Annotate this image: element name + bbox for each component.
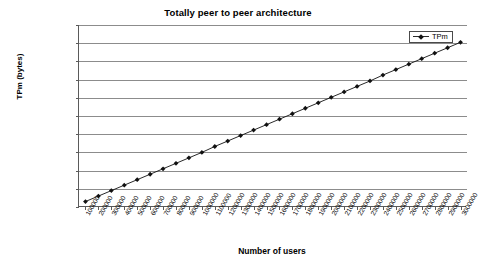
x-axis-title: Number of users [78, 246, 466, 256]
data-point-marker [458, 40, 463, 45]
y-tick-mark [76, 207, 79, 208]
data-point-marker [277, 117, 282, 122]
data-point-marker [303, 106, 308, 111]
legend-marker-icon [413, 33, 429, 40]
data-point-marker [238, 133, 243, 138]
legend-label-tpm: TPm [432, 33, 448, 41]
data-point-marker [432, 51, 437, 56]
chart-title: Totally peer to peer architecture [0, 7, 476, 18]
data-series-layer [79, 25, 467, 207]
data-point-marker [290, 111, 295, 116]
data-point-marker [419, 56, 424, 61]
data-point-marker [212, 144, 217, 149]
plot-area: 2000000000180000000016000000001400000000… [78, 25, 466, 207]
data-point-marker [251, 128, 256, 133]
series-line-tpm [85, 42, 460, 201]
data-point-marker [355, 84, 360, 89]
y-axis-title: TPm (bytes) [15, 17, 24, 137]
data-point-marker [342, 89, 347, 94]
data-point-marker [381, 73, 386, 78]
data-point-marker [187, 155, 192, 160]
data-point-marker [199, 150, 204, 155]
data-point-marker [368, 79, 373, 84]
data-point-marker [96, 194, 101, 199]
chart-legend: TPm [409, 31, 453, 43]
data-point-marker [148, 172, 153, 177]
data-point-marker [316, 100, 321, 105]
data-point-marker [264, 122, 269, 127]
data-point-marker [161, 166, 166, 171]
data-point-marker [445, 45, 450, 50]
data-point-marker [406, 62, 411, 67]
data-point-marker [174, 161, 179, 166]
data-point-marker [135, 177, 140, 182]
data-point-marker [109, 188, 114, 193]
data-point-marker [393, 67, 398, 72]
data-point-marker [122, 183, 127, 188]
data-point-marker [225, 139, 230, 144]
data-point-marker [83, 199, 88, 204]
data-point-marker [329, 95, 334, 100]
